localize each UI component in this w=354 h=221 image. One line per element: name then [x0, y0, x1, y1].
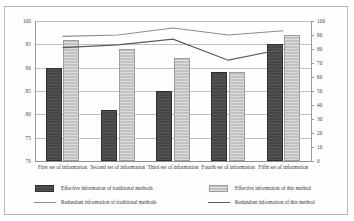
legend-swatch-square-light [209, 185, 228, 192]
bar [156, 91, 172, 161]
legend-label: Redundant information of this method [235, 198, 315, 206]
bar [229, 72, 245, 161]
legend-swatch-line-mid [208, 202, 230, 203]
bar [101, 110, 117, 161]
y-axis-left [35, 21, 36, 162]
y-tick-left: 100 [11, 18, 31, 24]
tick-mark [311, 49, 314, 50]
y-tick-right: 10 [317, 144, 339, 150]
tick-mark [311, 133, 314, 134]
y-tick-right: 80 [317, 46, 339, 52]
y-tick-left: 90 [11, 65, 31, 71]
tick-mark [311, 91, 314, 92]
y-tick-right: 70 [317, 60, 339, 66]
bar [63, 40, 79, 161]
tick-mark [311, 119, 314, 120]
tick-mark [311, 35, 314, 36]
y-tick-left: 95 [11, 41, 31, 47]
legend-label: Redundant information of traditional met… [61, 198, 156, 206]
tick-mark [311, 161, 314, 162]
gridline [35, 21, 311, 22]
bar [284, 35, 300, 161]
y-tick-right: 0 [317, 158, 339, 164]
x-axis [35, 161, 312, 162]
y-tick-right: 90 [317, 32, 339, 38]
legend-label: Effective information of this method [235, 184, 311, 192]
x-axis-label: Fifth set of information [251, 164, 315, 171]
tick-mark [311, 147, 314, 148]
y-tick-right: 50 [317, 88, 339, 94]
legend-label: Effective information of traditional met… [61, 184, 153, 192]
y-tick-left: 85 [11, 88, 31, 94]
y-tick-left: 70 [11, 158, 31, 164]
y-tick-left: 75 [11, 135, 31, 141]
y-tick-right: 60 [317, 74, 339, 80]
legend-swatch-square-dark [35, 185, 54, 192]
bar [211, 72, 227, 161]
bar [267, 44, 283, 161]
y-tick-left: 80 [11, 111, 31, 117]
tick-mark [311, 21, 314, 22]
y-tick-right: 30 [317, 116, 339, 122]
bar [46, 68, 62, 161]
bar [119, 49, 135, 161]
bar [174, 58, 190, 161]
legend-swatch-line-dark [34, 202, 56, 203]
chart-frame: 707580859095100 0102030405060708090100 F… [4, 6, 348, 215]
tick-mark [311, 63, 314, 64]
y-tick-right: 40 [317, 102, 339, 108]
chart-legend: Effective information of traditional met… [13, 183, 341, 213]
tick-mark [311, 77, 314, 78]
tick-mark [311, 105, 314, 106]
y-tick-right: 100 [317, 18, 339, 24]
y-tick-right: 20 [317, 130, 339, 136]
